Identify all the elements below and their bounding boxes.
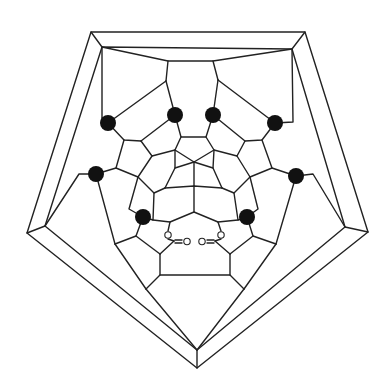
marked-vertex (288, 168, 304, 184)
marked-vertex (100, 115, 116, 131)
second-ring (27, 32, 368, 368)
outer-pentagon (27, 32, 368, 368)
schlegel-diagram (0, 0, 388, 385)
oxygen-right-double (199, 238, 205, 244)
marked-vertex (135, 209, 151, 225)
oxygen-right-ring (218, 232, 224, 238)
oxygen-left-ring (165, 232, 171, 238)
marked-vertex (205, 107, 221, 123)
marked-vertex (267, 115, 283, 131)
oxygen-left-double (184, 238, 190, 244)
marked-vertex (167, 107, 183, 123)
marked-vertex (88, 166, 104, 182)
ester-groups (160, 222, 230, 254)
inner-cage-edges (45, 47, 345, 350)
marked-vertex (239, 209, 255, 225)
